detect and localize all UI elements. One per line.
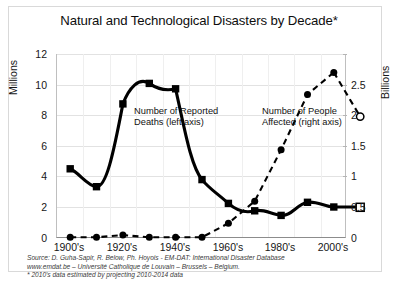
chart-frame: Natural and Technological Disasters by D… <box>8 6 382 272</box>
right-tick-0: 0 <box>351 232 377 244</box>
annotation-affected: Number of People Affected (right axis) <box>262 106 342 129</box>
right-tick-0-5: 0.5 <box>351 201 377 213</box>
left-axis-title: Millions <box>7 60 19 95</box>
right-axis-title: Billions <box>379 66 391 99</box>
left-tick-8: 8 <box>25 109 47 121</box>
series-reported-deaths <box>67 80 365 219</box>
x-tick-1940s: 1940's <box>160 241 191 253</box>
footnote-estimate: * 2010's data estimated by projecting 20… <box>27 271 387 280</box>
left-tick-6: 6 <box>25 140 47 152</box>
footnotes: Source: D. Guha-Sapir, R. Below, Ph. Hoy… <box>27 254 387 280</box>
right-tick-2-5: 2.5 <box>351 79 377 91</box>
x-tick-1920s: 1920's <box>107 241 138 253</box>
annotation-deaths: Number of Reported Deaths (left axis) <box>134 106 218 129</box>
right-tick-2: 2 <box>351 109 377 121</box>
left-tick-10: 10 <box>25 79 47 91</box>
left-tick-0: 0 <box>25 232 47 244</box>
left-tick-2: 2 <box>25 201 47 213</box>
right-tick-1-5: 1.5 <box>351 140 377 152</box>
chart-title: Natural and Technological Disasters by D… <box>49 13 349 29</box>
x-tick-2000s: 2000's <box>318 241 349 253</box>
right-tick-1: 1 <box>351 170 377 182</box>
plot-area: Number of Reported Deaths (left axis) Nu… <box>56 54 346 238</box>
left-tick-4: 4 <box>25 170 47 182</box>
x-tick-1900s: 1900's <box>54 241 85 253</box>
left-tick-12: 12 <box>25 48 47 60</box>
x-tick-1960s: 1960's <box>213 241 244 253</box>
series-layer <box>57 54 347 238</box>
x-tick-1980s: 1980's <box>265 241 296 253</box>
footnote-source: Source: D. Guha-Sapir, R. Below, Ph. Hoy… <box>27 254 387 263</box>
footnote-website: www.emdat.be – Université Catholique de … <box>27 263 387 272</box>
